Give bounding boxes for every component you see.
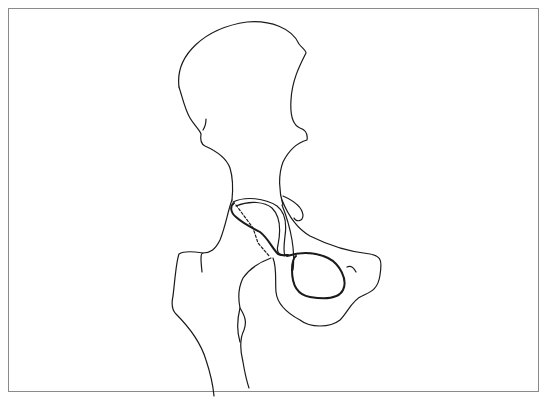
pelvic-brim — [273, 200, 381, 326]
ilium-outline — [179, 22, 308, 205]
femoral-neck-dashed-line — [236, 205, 270, 257]
acetabulum-rim-inner — [236, 202, 285, 256]
hip-joint-drawing — [0, 0, 546, 398]
obturator-foramen — [287, 253, 345, 298]
ilium-notch-mark — [203, 119, 206, 130]
lesser-trochanter — [238, 308, 240, 342]
pubic-tubercle-mark — [347, 266, 356, 272]
femur-medial-shaft — [239, 258, 271, 388]
femur-greater-trochanter — [201, 200, 232, 272]
ilium-left-edge — [179, 87, 233, 200]
femur-lateral-shaft — [172, 252, 214, 396]
